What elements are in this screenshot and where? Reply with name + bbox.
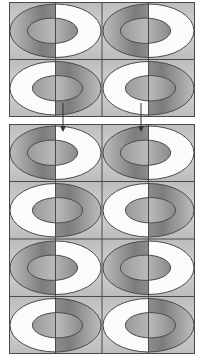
ring-inner-ellipse bbox=[27, 255, 77, 280]
ring-inner-ellipse bbox=[125, 313, 175, 338]
ring-inner-ellipse bbox=[32, 313, 82, 338]
ring-inner-ellipse bbox=[125, 198, 175, 223]
ring-inner-ellipse bbox=[120, 140, 170, 165]
ring-inner-ellipse bbox=[32, 76, 82, 101]
ring-inner-ellipse bbox=[32, 198, 82, 223]
diagram-canvas bbox=[0, 0, 202, 362]
ring-inner-ellipse bbox=[125, 76, 175, 101]
ring-inner-ellipse bbox=[27, 18, 77, 43]
top-grid bbox=[9, 2, 195, 117]
ring-inner-ellipse bbox=[27, 140, 77, 165]
ring-inner-ellipse bbox=[120, 18, 170, 43]
ring-pattern-diagram bbox=[0, 0, 202, 362]
bottom-grid bbox=[9, 124, 195, 354]
ring-inner-ellipse bbox=[120, 255, 170, 280]
